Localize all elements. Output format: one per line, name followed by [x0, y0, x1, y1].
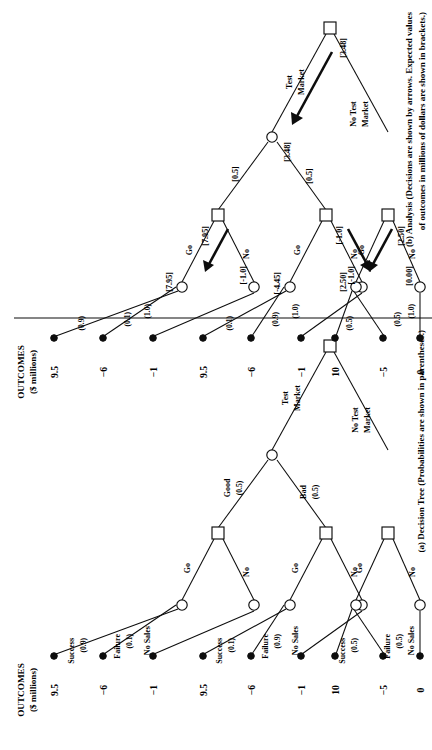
- edge-b-good: [218, 142, 268, 210]
- panel-b-ev-notest-go: [2.50]: [339, 272, 348, 292]
- panel-b-label-no-1: No: [242, 249, 251, 259]
- panel-b-branch-prob-good: [0.5]: [231, 166, 240, 182]
- panel-b-outcome-6: −1: [296, 367, 307, 377]
- panel-b-terminal-3: [150, 335, 157, 342]
- panel-a-prob-failure-2: (0.9): [273, 634, 282, 649]
- panel-a-label-go-3: Go: [355, 563, 364, 573]
- panel-a-outcome-4: 9.5: [198, 684, 209, 696]
- panel-b-caption-line1: (b) Analysis (Decisions are shown by arr…: [404, 12, 414, 247]
- panel-a-label-nosales-2: No Sales: [291, 626, 300, 655]
- panel-a-label-failure-1: Failure: [113, 634, 122, 659]
- panel-b-terminal-7: [332, 335, 339, 342]
- panel-a-prob-failure-3: (0.5): [395, 634, 404, 649]
- panel-a-label-nosales-1: No Sales: [143, 626, 152, 655]
- panel-a-chance-notest-no: [415, 600, 425, 610]
- panel-b-chance-good-go: [177, 282, 187, 292]
- edge-b-good-go-p2: [104, 287, 176, 336]
- panel-a-label-nosales-3: No Sales: [407, 626, 416, 655]
- panel-a-decision-node-notest: [382, 527, 394, 539]
- panel-b: OUTCOMES ($ millions): [16, 12, 427, 399]
- panel-b-ev-chance-node: [3.48]: [283, 142, 292, 162]
- panel-b-label-test-market-l1: Test: [285, 75, 294, 89]
- panel-b-outcome-4: 9.5: [198, 366, 209, 378]
- panel-a-prob-bad: (0.5): [311, 484, 320, 499]
- panel-b-chance-good-no: [249, 282, 259, 292]
- panel-b-prob-5: (0.9): [271, 312, 280, 327]
- panel-a-decision-node-good: [212, 527, 224, 539]
- panel-b-ev-bad-go: [-4.45]: [273, 272, 282, 295]
- panel-a-chance-good-no: [249, 600, 259, 610]
- panel-b-chance-node-market: [267, 132, 277, 142]
- panel-a-outcome-8: −5: [378, 685, 389, 695]
- panel-b-label-no-3: No: [408, 249, 417, 259]
- panel-b-outcome-8: −5: [378, 367, 389, 377]
- panel-b-ev-good-no: [-1.0]: [239, 266, 248, 285]
- panel-a-label-success-1: Success: [67, 638, 76, 664]
- panel-a-label-no-3: No: [408, 567, 417, 577]
- panel-b-label-go-2: Go: [293, 245, 302, 255]
- panel-b-root-decision-node: [324, 22, 336, 34]
- panel-b-outcome-3: −1: [148, 367, 159, 377]
- panel-b-outcome-7: 10: [330, 367, 341, 377]
- panel-b-chance-bad-go: [285, 282, 295, 292]
- panel-b-ev-bad-no: [-1.0]: [347, 266, 356, 285]
- panel-b-prob-8: (0.5): [393, 312, 402, 327]
- panel-b-outcome-9: 0: [415, 369, 426, 374]
- panel-b-prob-7: (0.5): [345, 316, 354, 331]
- panel-a-outcomes-header-line1: OUTCOMES: [16, 663, 26, 717]
- panel-a-outcome-7: 10: [330, 685, 341, 695]
- panel-a-label-no-test-market-l1: No Test: [351, 407, 360, 433]
- panel-b-prob-9: (1.0): [407, 304, 416, 319]
- panel-a-outcomes-header-line2: ($ millions): [28, 668, 38, 712]
- panel-a-prob-good: (0.5): [235, 480, 244, 495]
- panel-a-prob-success-1: (0.9): [79, 638, 88, 653]
- panel-a-outcome-5: −6: [246, 685, 257, 695]
- figure-root: OUTCOMES ($ millions): [0, 0, 432, 750]
- panel-a-terminal-2: [100, 653, 107, 660]
- panel-b-branch-prob-bad: [0.5]: [305, 168, 314, 184]
- panel-a-outcome-1: 9.5: [49, 684, 60, 696]
- panel-a-terminal-5: [248, 653, 255, 660]
- panel-a-prob-success-2: (0.1): [227, 638, 236, 653]
- panel-a-caption: (a) Decision Tree (Probabilities are sho…: [416, 330, 426, 553]
- decision-tree-figure: OUTCOMES ($ millions): [0, 0, 432, 750]
- panel-a-label-go-2: Go: [291, 563, 300, 573]
- panel-b-ev-notest-no: [0.00]: [405, 266, 414, 286]
- edge-good-no-nosales: [154, 611, 254, 654]
- panel-b-caption-line2: of outcomes in millions of dollars are s…: [417, 12, 427, 230]
- panel-b-chance-notest-no: [415, 282, 425, 292]
- panel-a-label-bad: Bad: [299, 485, 308, 499]
- panel-a-label-test-market-l2: Market: [293, 385, 302, 411]
- panel-a-outcome-6: −1: [296, 685, 307, 695]
- panel-b-decision-node-good: [212, 209, 224, 221]
- panel-a-outcome-3: −1: [148, 685, 159, 695]
- figure-rotated-canvas: OUTCOMES ($ millions): [0, 0, 432, 750]
- panel-b-decision-node-bad: [320, 209, 332, 221]
- panel-b-outcome-2: −6: [98, 367, 109, 377]
- panel-b-terminal-4: [200, 335, 207, 342]
- panel-a-chance-good-go: [177, 600, 187, 610]
- panel-b-terminal-9: [417, 335, 424, 342]
- edge-b-good-no-p1: [154, 293, 254, 336]
- edge-b-notest-go-p2: [351, 287, 384, 336]
- panel-b-outcomes-header-line2: ($ millions): [28, 350, 38, 394]
- panel-b-ev-decision-bad: [-1.0]: [335, 226, 344, 245]
- panel-a-chance-notest-go: [351, 600, 361, 610]
- panel-a-label-test-market-l1: Test: [281, 391, 290, 405]
- panel-b-label-no-test-market-l2: Market: [361, 101, 370, 127]
- panel-b-label-go-1: Go: [185, 245, 194, 255]
- panel-b-prob-3: (1.0): [143, 304, 152, 319]
- panel-a-label-good: Good: [223, 478, 232, 497]
- panel-a-chance-bad-go: [285, 600, 295, 610]
- panel-b-terminal-2: [100, 335, 107, 342]
- panel-a-label-no-test-market-l2: Market: [363, 407, 372, 433]
- panel-b-decision-node-notest: [382, 209, 394, 221]
- panel-a-prob-success-3: (0.5): [350, 638, 359, 653]
- panel-a-root-decision-node: [324, 340, 336, 352]
- panel-b-label-test-market-l2: Market: [297, 69, 306, 95]
- panel-b-ev-good-go: [7.95]: [165, 272, 174, 292]
- panel-b-terminal-8: [380, 335, 387, 342]
- panel-a-label-failure-3: Failure: [383, 634, 392, 659]
- panel-b-ev-decision-good: [7.95]: [201, 226, 210, 246]
- panel-b-outcomes-header-line1: OUTCOMES: [16, 345, 26, 399]
